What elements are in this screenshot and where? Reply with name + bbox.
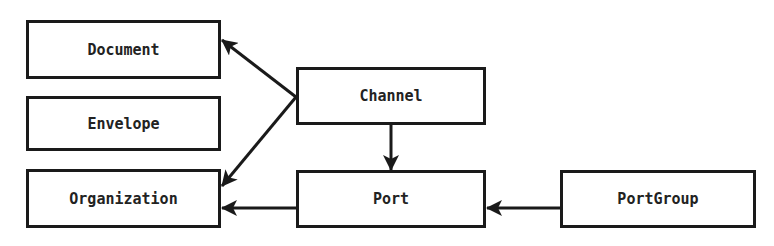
edge-channel-to-document: [222, 40, 296, 97]
node-label: Document: [87, 41, 159, 59]
node-organization: Organization: [26, 169, 221, 228]
node-envelope: Envelope: [26, 96, 221, 151]
node-label: PortGroup: [617, 190, 698, 208]
node-label: Organization: [69, 190, 177, 208]
node-label: Port: [373, 190, 409, 208]
node-document: Document: [26, 20, 221, 79]
node-portgroup: PortGroup: [560, 170, 756, 228]
node-channel: Channel: [296, 67, 486, 125]
node-label: Channel: [359, 87, 422, 105]
edge-channel-to-organization: [222, 97, 296, 186]
node-label: Envelope: [87, 115, 159, 133]
node-port: Port: [296, 170, 486, 228]
